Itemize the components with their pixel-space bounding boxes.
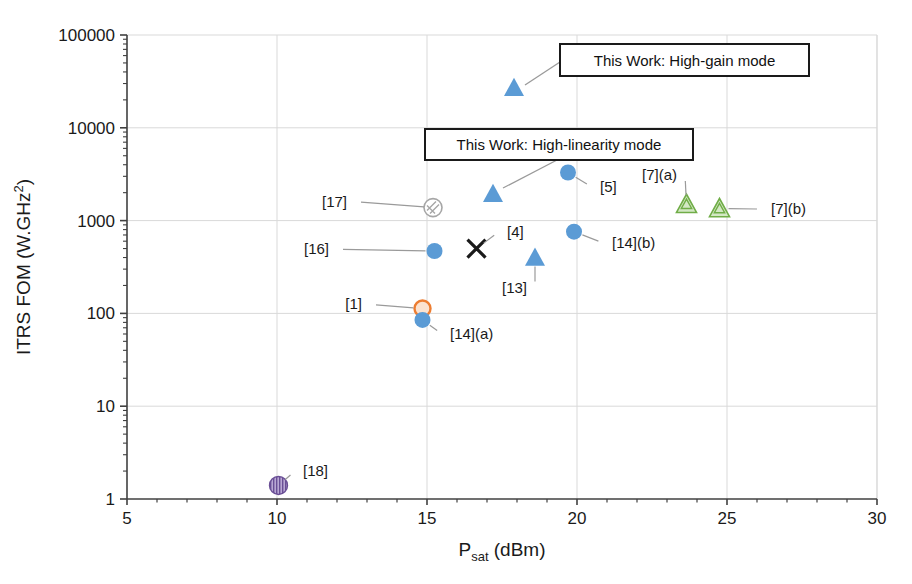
reference-label: [17] xyxy=(322,193,347,210)
x-tick-label: 25 xyxy=(718,509,737,528)
data-point--17- xyxy=(424,199,442,217)
marker-circle-striped xyxy=(270,476,288,494)
marker-circle xyxy=(560,164,576,180)
x-tick-label: 20 xyxy=(568,509,587,528)
x-title-base: P xyxy=(458,539,471,560)
data-point--5- xyxy=(560,164,576,180)
reference-label: [5] xyxy=(600,178,617,195)
x-tick-label: 5 xyxy=(122,509,131,528)
x-tick-label: 30 xyxy=(868,509,887,528)
y-title-base: ITRS FOM (W.GHz xyxy=(13,193,34,356)
itrs-fom-scatter-chart: 51015202530110100100010000100000 [17][5]… xyxy=(0,0,912,584)
reference-label: [16] xyxy=(304,240,329,257)
y-title-sup: 2 xyxy=(11,185,26,192)
y-tick-label: 100 xyxy=(87,304,115,323)
callout-text: This Work: High-gain mode xyxy=(594,52,775,69)
reference-label: [4] xyxy=(507,223,524,240)
reference-label: [7](a) xyxy=(642,166,677,183)
x-title-sub: sat xyxy=(471,549,489,564)
figure-container: 51015202530110100100010000100000 [17][5]… xyxy=(0,0,912,584)
y-tick-label: 10000 xyxy=(68,119,115,138)
reference-label: [14](b) xyxy=(612,234,655,251)
y-tick-label: 10 xyxy=(96,397,115,416)
reference-label: [18] xyxy=(303,462,328,479)
marker-circle xyxy=(566,224,582,240)
data-point--14-b- xyxy=(566,224,582,240)
chart-background xyxy=(0,0,912,584)
data-point--18- xyxy=(270,476,288,494)
reference-label: [13] xyxy=(502,279,527,296)
x-title-rest: (dBm) xyxy=(489,539,546,560)
y-axis-title: ITRS FOM (W.GHz2) xyxy=(11,179,34,355)
marker-circle xyxy=(415,312,431,328)
y-tick-label: 1000 xyxy=(77,212,115,231)
reference-label: [1] xyxy=(345,295,362,312)
reference-label: [14](a) xyxy=(450,325,493,342)
leader-line xyxy=(685,181,686,195)
callout-text: This Work: High-linearity mode xyxy=(457,136,662,153)
marker-circle xyxy=(427,243,443,259)
y-tick-label: 100000 xyxy=(58,26,115,45)
x-tick-label: 10 xyxy=(268,509,287,528)
y-tick-label: 1 xyxy=(106,490,115,509)
data-point--14-a- xyxy=(415,312,431,328)
y-title-rest: ) xyxy=(13,179,34,185)
x-tick-label: 15 xyxy=(418,509,437,528)
data-point--16- xyxy=(427,243,443,259)
marker-circle-hatched xyxy=(424,199,442,217)
reference-label: [7](b) xyxy=(771,200,806,217)
